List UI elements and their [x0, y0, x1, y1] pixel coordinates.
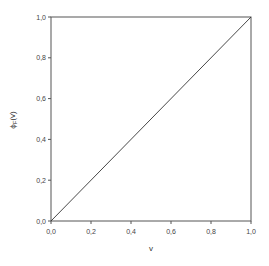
y-tick-label: 1,0 [36, 14, 46, 21]
y-axis-tick-labels: 0,0 0,2 0,4 0,6 0,8 1,0 [36, 14, 46, 225]
y-axis-label-arg: (v) [8, 111, 17, 121]
x-axis-label: v [149, 244, 153, 253]
x-tick-label: 0,6 [166, 228, 176, 235]
x-tick-label: 0,0 [46, 228, 56, 235]
svg-text:ϕF(v): ϕF(v) [8, 111, 18, 129]
y-tick-label: 0,6 [36, 95, 46, 102]
y-tick-label: 0,4 [36, 136, 46, 143]
x-tick-label: 0,8 [206, 228, 216, 235]
y-tick-label: 0,8 [36, 54, 46, 61]
chart: 0,0 0,2 0,4 0,6 0,8 1,0 0,0 0,2 0,4 0,6 … [0, 0, 269, 266]
diagonal-series-line [51, 17, 251, 221]
x-axis-tick-labels: 0,0 0,2 0,4 0,6 0,8 1,0 [46, 228, 256, 235]
y-tick-label: 0,2 [36, 177, 46, 184]
y-axis-label: ϕF(v) [8, 111, 18, 129]
x-tick-label: 0,4 [126, 228, 136, 235]
x-tick-label: 0,2 [86, 228, 96, 235]
y-tick-label: 0,0 [36, 218, 46, 225]
x-tick-label: 1,0 [246, 228, 256, 235]
